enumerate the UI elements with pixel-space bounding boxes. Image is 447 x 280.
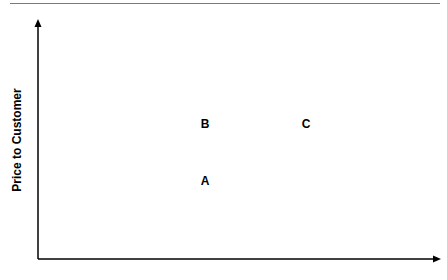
y-axis-label: Price to Customer [10,88,24,191]
chart-axes [0,0,447,280]
y-axis-arrow-icon [35,19,42,27]
x-axis-arrow-icon [433,256,441,263]
point-label-c: C [302,117,311,131]
point-label-b: B [201,117,210,131]
point-label-a: A [201,174,210,188]
